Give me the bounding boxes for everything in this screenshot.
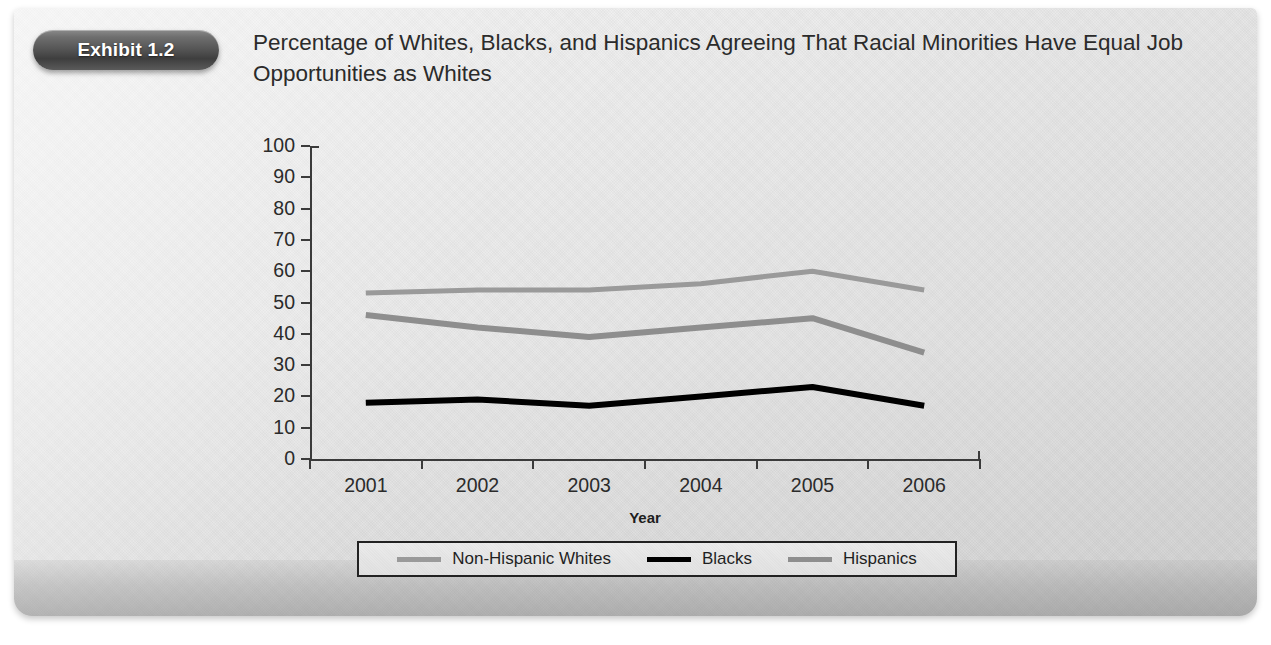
legend-label: Non-Hispanic Whites xyxy=(452,549,611,569)
exhibit-page: Exhibit 1.2 Percentage of Whites, Blacks… xyxy=(0,0,1271,645)
x-axis-title: Year xyxy=(310,509,980,526)
chart-legend: Non-Hispanic WhitesBlacksHispanics xyxy=(357,541,957,577)
series-lines xyxy=(0,110,1243,550)
series-line xyxy=(366,271,924,293)
exhibit-badge-label: Exhibit 1.2 xyxy=(77,39,174,61)
legend-label: Hispanics xyxy=(843,549,917,569)
legend-item[interactable]: Hispanics xyxy=(788,549,917,569)
legend-swatch-icon xyxy=(788,557,832,562)
series-line xyxy=(366,315,924,353)
legend-item[interactable]: Non-Hispanic Whites xyxy=(397,549,611,569)
exhibit-badge: Exhibit 1.2 xyxy=(33,30,219,70)
legend-swatch-icon xyxy=(397,557,441,562)
legend-item[interactable]: Blacks xyxy=(647,549,752,569)
legend-swatch-icon xyxy=(647,557,691,562)
chart-area: 0102030405060708090100 20012002200320042… xyxy=(0,110,1243,610)
series-line xyxy=(366,387,924,406)
legend-label: Blacks xyxy=(702,549,752,569)
exhibit-title: Percentage of Whites, Blacks, and Hispan… xyxy=(253,27,1213,89)
